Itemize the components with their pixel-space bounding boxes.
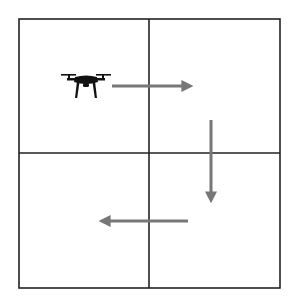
grid (19, 19, 280, 288)
flight-path-diagram (0, 0, 302, 303)
